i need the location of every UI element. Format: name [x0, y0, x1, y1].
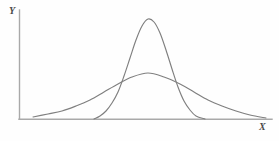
narrow-tall-normal-curve	[94, 19, 205, 119]
y-axis-label: Y	[9, 6, 15, 16]
plot-canvas	[0, 0, 279, 141]
x-axis-label: X	[259, 122, 266, 132]
chart-figure: Y X	[0, 0, 279, 141]
wide-flat-normal-curve	[33, 73, 266, 118]
